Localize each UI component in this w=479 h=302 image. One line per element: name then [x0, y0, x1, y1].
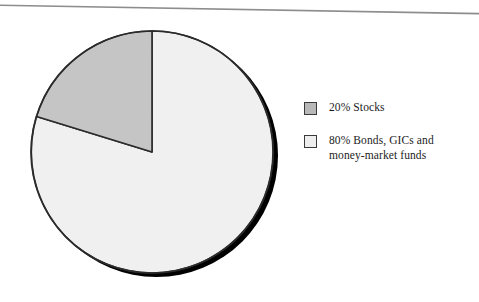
legend-item-stocks: 20% Stocks: [304, 100, 476, 115]
legend-item-bonds-gics-money-market: 80% Bonds, GICs and money-market funds: [304, 133, 476, 162]
legend-swatch-bonds-gics-money-market-icon: [304, 135, 317, 148]
pie-chart-figure: 20% Stocks 80% Bonds, GICs and money-mar…: [0, 0, 479, 302]
chart-legend: 20% Stocks 80% Bonds, GICs and money-mar…: [304, 100, 476, 162]
legend-label-bonds-gics-money-market: 80% Bonds, GICs and money-market funds: [329, 133, 434, 162]
pie-svg: [18, 18, 290, 290]
pie-chart-graphic: [18, 18, 290, 290]
legend-swatch-stocks-icon: [304, 102, 317, 115]
top-divider-rule: [0, 4, 479, 15]
legend-label-stocks: 20% Stocks: [329, 100, 385, 115]
